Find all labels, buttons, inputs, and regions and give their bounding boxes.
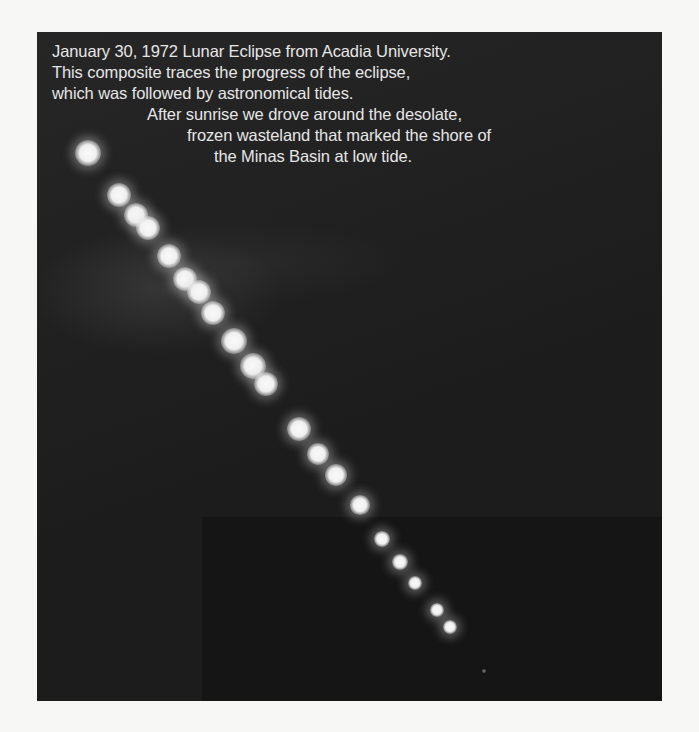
moon-image: [307, 443, 329, 465]
moon-image: [201, 301, 225, 325]
caption-line-4: After sunrise we drove around the desola…: [147, 104, 462, 125]
caption-line-3: which was followed by astronomical tides…: [52, 83, 353, 104]
moon-image: [287, 417, 311, 441]
moon-image: [350, 495, 369, 514]
moon-image: [107, 183, 131, 207]
moon-image: [136, 216, 160, 240]
moon-image: [254, 372, 278, 396]
caption-line-1: January 30, 1972 Lunar Eclipse from Acad…: [52, 41, 451, 62]
moon-image: [157, 244, 181, 268]
caption-line-6: the Minas Basin at low tide.: [214, 146, 412, 167]
caption-line-2: This composite traces the progress of th…: [52, 62, 410, 83]
caption-line-5: frozen wasteland that marked the shore o…: [187, 125, 491, 146]
moon-image: [187, 280, 211, 304]
moon-image: [325, 464, 347, 486]
eclipse-photo: January 30, 1972 Lunar Eclipse from Acad…: [37, 32, 662, 701]
